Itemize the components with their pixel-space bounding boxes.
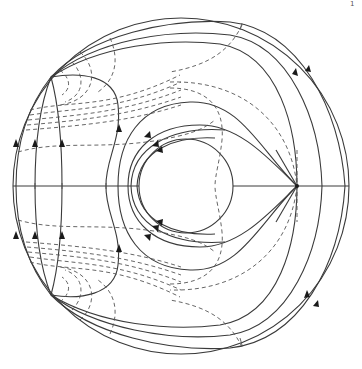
arrow-icon	[144, 131, 151, 138]
arrow-icon	[59, 139, 65, 147]
arrow-icon	[305, 65, 311, 72]
arrow-icon	[13, 231, 19, 239]
arrow-icon	[144, 234, 151, 241]
x-point-dot	[295, 184, 299, 188]
outer-field-lines	[51, 21, 345, 348]
arrow-icon	[292, 68, 298, 76]
field-line-diagram	[0, 0, 362, 369]
arrow-icon	[116, 244, 122, 252]
arrow-icon	[313, 300, 319, 307]
arrow-icon	[116, 124, 122, 132]
